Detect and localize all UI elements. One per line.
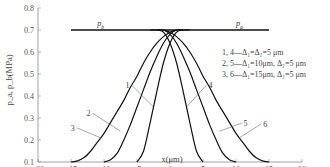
subscript: b <box>101 24 104 30</box>
curve-label-4: 4 <box>209 81 213 90</box>
x-tick-label: 10 <box>232 165 240 167</box>
curve-label-5: 5 <box>244 119 248 128</box>
y-tick-label: 0.7 <box>24 26 34 35</box>
curve-1 <box>137 30 190 162</box>
curve-label-3: 3 <box>71 124 75 133</box>
x-tick-label: 0 <box>168 165 172 167</box>
reference-line-label: pb <box>96 19 104 30</box>
subscript: a <box>240 24 243 30</box>
x-axis-title: x(μm) <box>161 154 182 164</box>
reference-line-label: pa <box>235 19 243 30</box>
x-tick-label: −15 <box>65 165 78 167</box>
curve-label-2: 2 <box>87 109 91 118</box>
axes: −20−15−10−5051015200.10.20.30.40.50.60.7… <box>24 4 306 167</box>
reference-lines: pbpa <box>71 19 269 30</box>
curve-2 <box>104 30 183 162</box>
chart: −20−15−10−5051015200.10.20.30.40.50.60.7… <box>0 0 330 167</box>
y-tick-label: 0.8 <box>24 4 34 13</box>
curve-4 <box>150 30 203 162</box>
y-tick-label: 0.4 <box>24 92 34 101</box>
legend-entry: 2, 5—Δ₁=10μm, Δ₂=5 μm <box>222 59 307 68</box>
legend-entry: 1, 4—Δ₁=Δ₂=5 μm <box>222 48 284 57</box>
legend: 1, 4—Δ₁=Δ₂=5 μm 2, 5—Δ₁=10μm, Δ₂=5 μm 3,… <box>222 48 307 79</box>
y-tick-label: 0.5 <box>24 70 34 79</box>
x-tick-label: 5 <box>201 165 205 167</box>
y-tick-label: 0.2 <box>24 136 34 145</box>
leader-line <box>132 85 154 107</box>
x-tick-label: 20 <box>298 165 306 167</box>
curve-3 <box>71 30 177 162</box>
y-tick-label: 0.1 <box>24 158 34 167</box>
x-tick-label: −5 <box>133 165 142 167</box>
curve-label-1: 1 <box>126 81 130 90</box>
y-tick-label: 0.3 <box>24 114 34 123</box>
x-tick-label: −10 <box>98 165 111 167</box>
leader-line <box>77 128 101 138</box>
curve-labels: 123456 <box>71 81 268 138</box>
curve-label-6: 6 <box>263 120 267 129</box>
y-tick-label: 0.6 <box>24 48 34 57</box>
legend-entry: 3, 6—Δ₁=15μm, Δ₂=5 μm <box>222 70 307 79</box>
x-tick-label: 15 <box>265 165 273 167</box>
y-axis-title: p_a, p_b(MPa) <box>4 54 14 105</box>
